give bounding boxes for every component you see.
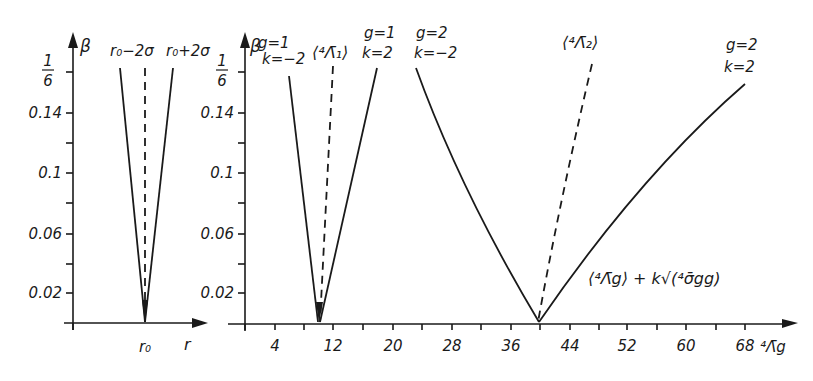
y-tick-1-6-num: 1: [217, 52, 227, 70]
right-x-ticks: 4 12 20 28 36 44 52 60 68: [270, 337, 754, 355]
diagram-canvas: 1 6 0.14 0.1 0.06 0.02 β r r₀ r₀−2σ r₀+2…: [0, 0, 813, 381]
left-y-axis-label: β: [79, 36, 91, 56]
left-panel: 1 6 0.14 0.1 0.06 0.02 β r r₀ r₀−2σ r₀+2…: [29, 32, 211, 356]
right-panel: 1 6 0.14 0.1 0.06 0.02 4 12 20 28 36 44 …: [201, 24, 798, 356]
label-g2-k2-k: k=2: [724, 58, 755, 76]
left-y-ticks: 1 6 0.14 0.1 0.06 0.02: [29, 52, 62, 302]
label-r0-plus-2sigma: r₀+2σ: [166, 42, 210, 60]
curve-r0-minus-2sigma: [120, 68, 145, 322]
x-tick-label: 28: [442, 337, 461, 355]
x-tick-label: 52: [617, 337, 636, 355]
x-tick-label: 60: [676, 337, 695, 355]
x-tick-label: 12: [323, 337, 342, 355]
y-tick-label: 0.06: [201, 225, 234, 243]
curve-g2-k-minus-2: [416, 68, 539, 322]
y-tick-label: 0.14: [201, 104, 234, 122]
y-tick-label: 0.02: [29, 284, 62, 302]
label-r0-minus-2sigma: r₀−2σ: [110, 42, 154, 60]
x-tick-label: 4: [270, 337, 280, 355]
y-tick-label: 0.1: [210, 164, 234, 182]
x-tick-label: 36: [501, 337, 520, 355]
y-tick-1-6-num: 1: [43, 52, 53, 70]
label-g1-k2-k: k=2: [362, 44, 393, 62]
left-x-axis-label: r: [184, 335, 192, 354]
y-tick-label: 0.02: [201, 284, 234, 302]
label-g2-km2-k: k=−2: [414, 44, 457, 62]
label-g1-km2-k: k=−2: [262, 50, 305, 68]
curve-g1-k-minus-2: [289, 76, 318, 322]
curve-g2-mean: [538, 64, 592, 322]
diagram-svg: 1 6 0.14 0.1 0.06 0.02 β r r₀ r₀−2σ r₀+2…: [0, 0, 813, 381]
label-g2-k2-g: g=2: [726, 36, 758, 54]
y-tick-label: 0.1: [38, 164, 62, 182]
right-y-ticks: 1 6 0.14 0.1 0.06 0.02: [201, 52, 234, 302]
y-tick-1-6-den: 6: [217, 72, 227, 90]
curve-g1-mean: [320, 66, 333, 322]
right-x-axis-label: ⁴Λ̄g: [760, 338, 786, 356]
x-tick-label: 20: [383, 337, 402, 355]
label-g1-mean: ⟨⁴Λ̄₁⟩: [312, 43, 348, 62]
x-tick-label: 68: [735, 337, 754, 355]
r0-label: r₀: [139, 338, 151, 356]
left-x-arrow-icon: [192, 318, 208, 328]
curve-r0-plus-2sigma: [145, 68, 173, 322]
y-tick-label: 0.06: [29, 225, 62, 243]
x-tick-label: 44: [560, 337, 579, 355]
label-g1-k2-g: g=1: [364, 24, 396, 42]
formula-label: ⟨⁴Λ̄g⟩ + k√(⁴σ̄gg): [588, 269, 720, 288]
y-tick-1-6-den: 6: [43, 72, 53, 90]
right-y-arrow-icon: [240, 32, 250, 48]
left-y-arrow-icon: [68, 32, 78, 48]
curve-g1-k-2: [320, 68, 377, 322]
right-x-arrow-icon: [782, 319, 798, 328]
label-g2-mean: ⟨⁴Λ̄₂⟩: [562, 33, 598, 52]
y-tick-label: 0.14: [29, 104, 62, 122]
label-g2-km2-g: g=2: [416, 24, 448, 42]
